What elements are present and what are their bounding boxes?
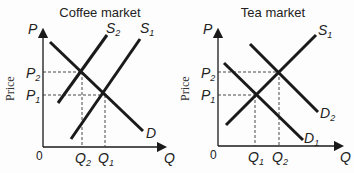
coffee-supply-s1-line bbox=[71, 39, 140, 139]
supply-demand-diagrams: Coffee market P Price P2 P1 0 Q2 Q1 Q S2… bbox=[0, 0, 354, 173]
tea-price-label: Price bbox=[178, 76, 192, 101]
coffee-q-axis-label: Q bbox=[164, 150, 175, 166]
tea-demand-d2-line bbox=[250, 44, 318, 112]
tea-p2-label: P2 bbox=[201, 65, 215, 83]
coffee-title: Coffee market bbox=[59, 5, 141, 20]
tea-d2-label: D2 bbox=[320, 105, 335, 123]
coffee-q1-label: Q1 bbox=[98, 150, 114, 168]
coffee-p1-label: P1 bbox=[26, 87, 40, 105]
coffee-d-label: D bbox=[146, 125, 156, 141]
coffee-p-axis-label: P bbox=[28, 21, 38, 37]
coffee-p2-label: P2 bbox=[26, 65, 40, 83]
tea-market-chart: Tea market P Price P2 P1 0 Q1 Q2 Q S1 D2… bbox=[178, 5, 351, 167]
tea-q-axis-label: Q bbox=[340, 149, 351, 165]
coffee-q2-label: Q2 bbox=[75, 150, 91, 168]
coffee-price-label: Price bbox=[3, 76, 17, 101]
tea-p1-label: P1 bbox=[201, 87, 215, 105]
tea-q2-label: Q2 bbox=[272, 149, 288, 167]
tea-demand-d1-line bbox=[224, 63, 303, 140]
coffee-market-chart: Coffee market P Price P2 P1 0 Q2 Q1 Q S2… bbox=[3, 5, 175, 168]
tea-d1-label: D1 bbox=[304, 130, 319, 148]
tea-origin-label: 0 bbox=[210, 148, 217, 162]
diagram-root: Coffee market P Price P2 P1 0 Q2 Q1 Q S2… bbox=[0, 0, 354, 173]
tea-p-axis-label: P bbox=[203, 21, 213, 37]
coffee-s2-label: S2 bbox=[106, 20, 120, 38]
tea-s1-label: S1 bbox=[318, 22, 332, 40]
coffee-supply-s2-line bbox=[58, 35, 107, 103]
coffee-s1-label: S1 bbox=[140, 20, 154, 38]
tea-title: Tea market bbox=[241, 5, 306, 20]
tea-q1-label: Q1 bbox=[248, 149, 264, 167]
coffee-origin-label: 0 bbox=[36, 149, 43, 163]
